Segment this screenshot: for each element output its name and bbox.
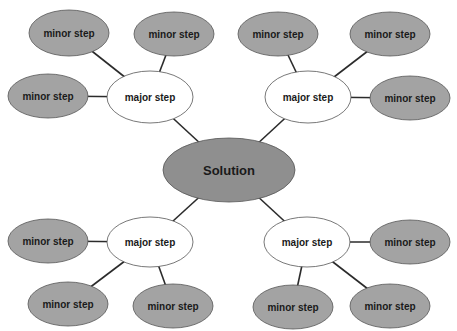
minor-step-node: minor step	[350, 284, 430, 328]
mind-map-diagram: Solutionmajor stepminor stepminor stepmi…	[0, 0, 457, 331]
minor-step-node: minor step	[29, 10, 109, 56]
minor-step-node-label: minor step	[43, 28, 94, 39]
minor-step-node: minor step	[370, 76, 450, 120]
minor-step-node-label: minor step	[147, 301, 198, 312]
major-step-node: major step	[107, 71, 193, 123]
minor-step-node: minor step	[238, 12, 318, 56]
minor-step-node: minor step	[350, 12, 430, 56]
minor-step-node-label: minor step	[22, 236, 73, 247]
major-step-node: major step	[264, 217, 350, 267]
minor-step-node: minor step	[133, 284, 213, 328]
minor-step-node-label: minor step	[267, 302, 318, 313]
minor-step-node: minor step	[28, 282, 108, 326]
minor-step-node-label: minor step	[22, 91, 73, 102]
diagram-nodes: Solutionmajor stepminor stepminor stepmi…	[8, 10, 450, 329]
major-step-node-label: major step	[125, 92, 176, 103]
minor-step-node: minor step	[8, 219, 88, 263]
minor-step-node-label: minor step	[148, 29, 199, 40]
minor-step-node: minor step	[134, 12, 214, 56]
minor-step-node: minor step	[8, 74, 88, 118]
minor-step-node-label: minor step	[384, 93, 435, 104]
minor-step-node-label: minor step	[384, 237, 435, 248]
minor-step-node-label: minor step	[364, 301, 415, 312]
solution-node-label: Solution	[203, 163, 255, 178]
major-step-node: major step	[107, 217, 193, 267]
major-step-node: major step	[265, 71, 351, 123]
minor-step-node-label: minor step	[364, 29, 415, 40]
major-step-node-label: major step	[282, 237, 333, 248]
minor-step-node-label: minor step	[252, 29, 303, 40]
major-step-node-label: major step	[125, 237, 176, 248]
solution-node: Solution	[163, 138, 295, 202]
minor-step-node: minor step	[253, 285, 333, 329]
major-step-node-label: major step	[283, 92, 334, 103]
minor-step-node: minor step	[370, 220, 450, 264]
minor-step-node-label: minor step	[42, 299, 93, 310]
